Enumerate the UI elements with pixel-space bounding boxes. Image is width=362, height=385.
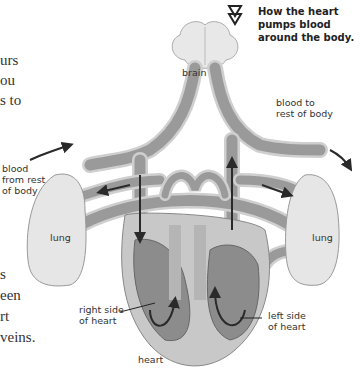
double-down-triangle-icon [227,4,243,30]
diagram-title: How the heart pumps blood around the bod… [258,5,354,44]
heart-circulation-diagram [0,0,362,385]
label-lung-right: lung [312,232,333,243]
label-lung-left: lung [50,232,71,243]
label-heart: heart [138,354,163,365]
label-blood-to-rest-of-body: blood to rest of body [276,97,333,119]
heart-icon [122,213,270,366]
label-right-side-of-heart: right side of heart [79,304,124,326]
label-left-side-of-heart: left side of heart [268,310,306,332]
label-blood-from-rest-of-body: blood from rest of body [2,163,45,196]
label-brain: brain [182,67,206,78]
lung-right-icon [286,175,340,286]
